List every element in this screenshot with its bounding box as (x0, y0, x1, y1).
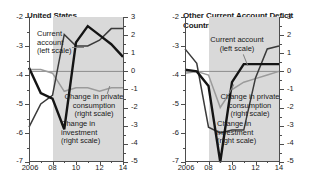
panel-united-states: United States -2 -3 -4 -5 -6 (0, 0, 155, 179)
x-tick-label: 12 (243, 164, 269, 172)
annotation-investment: Change in investment (right scale) (217, 120, 279, 146)
x-tick-label: 08 (196, 164, 222, 172)
left-axis (185, 17, 186, 162)
x-tick-label: 14 (110, 164, 136, 172)
left-axis (29, 17, 30, 162)
right-tick-label: -2 (131, 103, 151, 111)
annotation-private-consumption: Change in private consumption (right sca… (62, 93, 126, 119)
right-tick-label: 3 (287, 13, 307, 21)
left-tick-label: -4 (3, 71, 23, 79)
left-tick-label: -6 (3, 129, 23, 137)
right-tick-label: 1 (287, 49, 307, 57)
right-tick-label: 0 (287, 67, 307, 75)
left-tick-label: -5 (159, 100, 179, 108)
left-tick-label: -4 (159, 71, 179, 79)
x-tick-label: 10 (219, 164, 245, 172)
leader-current-account (72, 47, 84, 48)
annotation-investment: Change in investment (right scale) (61, 120, 123, 146)
right-tick-label: -3 (287, 121, 307, 129)
left-tick-label: -2 (3, 13, 23, 21)
left-tick-label: -3 (159, 42, 179, 50)
right-tick-label: -3 (131, 121, 151, 129)
right-tick-label: -1 (287, 85, 307, 93)
figure-two-panel-chart: United States -2 -3 -4 -5 -6 (0, 0, 311, 179)
left-tick-label: -2 (159, 13, 179, 21)
x-tick-label: 12 (87, 164, 113, 172)
right-tick-label: 1 (131, 49, 151, 57)
left-tick-label: -3 (3, 42, 23, 50)
x-tick-label: 10 (63, 164, 89, 172)
right-tick-label: 0 (131, 67, 151, 75)
right-tick-label: 2 (131, 31, 151, 39)
x-tick-label: 08 (40, 164, 66, 172)
annotation-current-account: Current account (left scale) (37, 30, 97, 56)
annotation-current-account: Current account (left scale) (197, 36, 277, 53)
right-tick-label: -4 (287, 139, 307, 147)
panel-ocadc: Other Current Account Deficit Countries … (156, 0, 311, 179)
right-tick-label: -4 (131, 139, 151, 147)
x-tick-label: 14 (266, 164, 292, 172)
annotation-private-consumption: Change in private consumption (right sca… (218, 93, 282, 119)
right-tick-label: 2 (287, 31, 307, 39)
left-tick-label: -5 (3, 100, 23, 108)
right-tick-label: 3 (131, 13, 151, 21)
right-tick-label: -1 (131, 85, 151, 93)
left-tick-label: -6 (159, 129, 179, 137)
right-tick-label: -2 (287, 103, 307, 111)
